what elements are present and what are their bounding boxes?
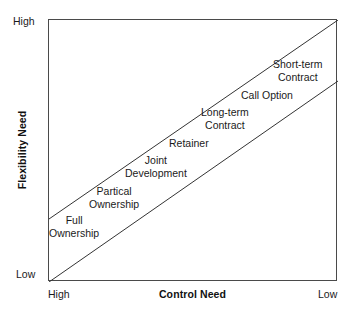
x-axis-title: Control Need <box>48 288 337 300</box>
y-axis-tick-high: High <box>13 15 35 27</box>
lower-boundary-line <box>49 81 338 282</box>
option-label-long-term-contract: Long-termContract <box>201 106 249 131</box>
option-label-full-ownership: FullOwnership <box>49 214 99 239</box>
option-label-line2: Ownership <box>89 198 139 211</box>
option-label-line1: Full <box>49 214 99 227</box>
y-axis-title: Flexibility Need <box>16 90 28 210</box>
option-label-call-option: Call Option <box>241 89 293 102</box>
option-label-line1: Short-term <box>273 58 323 71</box>
option-label-line1: Retainer <box>169 137 209 150</box>
option-label-line2: Contract <box>201 119 249 132</box>
option-label-joint-development: JointDevelopment <box>125 154 187 179</box>
plot-area: FullOwnershipParticalOwnershipJointDevel… <box>48 19 337 281</box>
option-label-line1: Joint <box>125 154 187 167</box>
option-label-line1: Long-term <box>201 106 249 119</box>
option-label-line2: Ownership <box>49 227 99 240</box>
y-axis-tick-low: Low <box>16 268 35 280</box>
option-label-line2: Development <box>125 167 187 180</box>
diagram-canvas: Flexibility Need High Low High Low Contr… <box>0 0 353 317</box>
option-label-partical-ownership: ParticalOwnership <box>89 185 139 210</box>
option-label-retainer: Retainer <box>169 137 209 150</box>
option-label-line1: Call Option <box>241 89 293 102</box>
option-label-line2: Contract <box>273 71 323 84</box>
option-label-line1: Partical <box>89 185 139 198</box>
option-label-short-term-contract: Short-termContract <box>273 58 323 83</box>
